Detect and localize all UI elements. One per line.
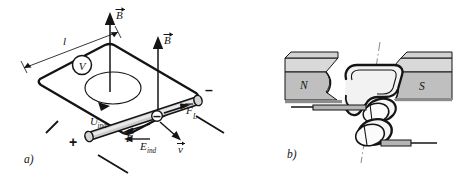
panel-a-tag: a)	[24, 153, 34, 166]
induced-field-subscript: ind	[147, 147, 157, 155]
magnet-north-base-shadow	[285, 100, 342, 103]
magnet-south-back-edge	[401, 52, 452, 58]
south-pole-label: S	[419, 80, 425, 92]
length-label: l	[63, 35, 66, 47]
lorentz-force-label: F	[185, 104, 193, 116]
physics-diagram-canvas: V B B l	[0, 0, 461, 181]
lorentz-force-subscript: L	[192, 113, 197, 121]
figure-root: V B B l	[0, 0, 461, 181]
brush-lower-body	[381, 140, 411, 146]
magnet-south-base-shadow	[395, 98, 452, 101]
induced-field-label: E	[139, 140, 147, 152]
terminal-positive-sign: +	[69, 134, 77, 150]
panel-b-tag: b)	[287, 148, 297, 161]
magnet-north-back-edge	[285, 52, 338, 58]
electron-charge-sign: –	[153, 108, 161, 124]
terminal-negative-sign: –	[205, 82, 213, 98]
north-pole-label: N	[299, 79, 309, 91]
brush-upper-body	[313, 105, 366, 110]
induced-voltage-subscript: ind	[98, 122, 108, 130]
